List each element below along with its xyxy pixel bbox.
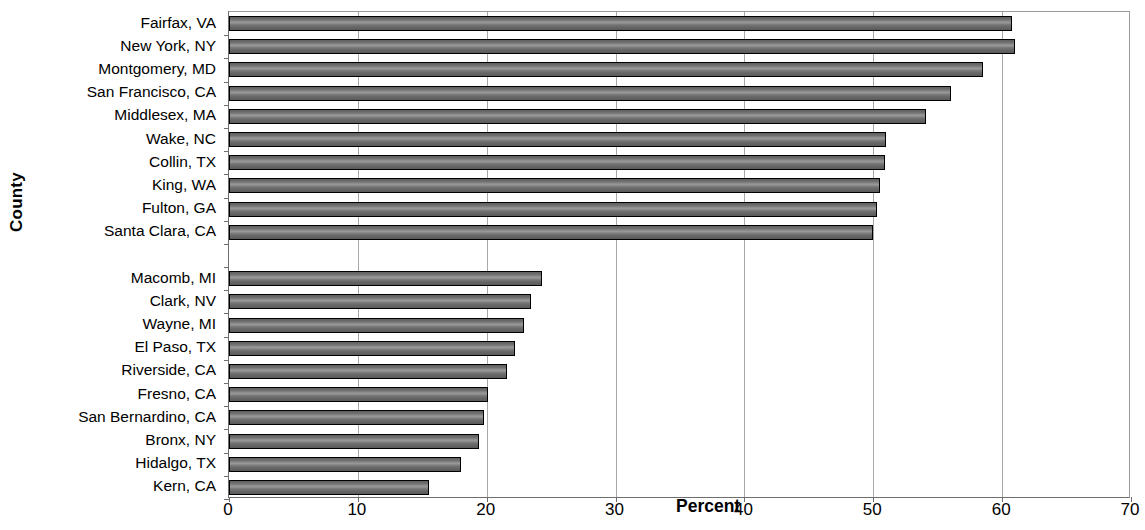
bar: [229, 294, 531, 309]
y-axis-title: County: [2, 132, 32, 272]
y-axis-category-label: Macomb, MI: [131, 270, 216, 286]
y-axis-category-label: Santa Clara, CA: [104, 223, 216, 239]
y-axis-category-label: Montgomery, MD: [98, 61, 216, 77]
y-axis-tick: [224, 174, 229, 175]
y-axis-tick: [224, 128, 229, 129]
bar: [229, 39, 1015, 54]
y-axis-category-label: San Bernardino, CA: [78, 409, 216, 425]
y-axis-tick: [224, 244, 229, 245]
y-axis-category-label: Bronx, NY: [145, 432, 216, 448]
y-axis-tick: [224, 198, 229, 199]
bar: [229, 155, 885, 170]
bar-chart: County Fairfax, VANew York, NYMontgomery…: [0, 0, 1145, 530]
y-axis-tick: [224, 151, 229, 152]
bar: [229, 341, 515, 356]
y-axis-category-label: Fulton, GA: [142, 200, 216, 216]
y-axis-category-label: Wake, NC: [146, 131, 216, 147]
y-axis-category-label: King, WA: [152, 177, 216, 193]
x-axis-tick-label: 70: [1121, 500, 1140, 520]
bar: [229, 410, 484, 425]
bar: [229, 364, 507, 379]
y-axis-tick: [224, 453, 229, 454]
y-axis-category-label: San Francisco, CA: [87, 84, 216, 100]
y-axis-tick: [224, 360, 229, 361]
y-axis-category-label: Wayne, MI: [143, 316, 217, 332]
y-axis-tick: [224, 105, 229, 106]
y-axis-category-label: Collin, TX: [149, 154, 216, 170]
y-axis-category-label: Riverside, CA: [121, 362, 216, 378]
y-axis-category-label: New York, NY: [120, 38, 216, 54]
x-axis-tick-label: 50: [863, 500, 882, 520]
x-axis-tick-label: 10: [347, 500, 366, 520]
y-axis-tick: [224, 221, 229, 222]
bar: [229, 225, 873, 240]
y-axis-tick: [224, 35, 229, 36]
bar: [229, 16, 1012, 31]
y-axis-tick: [224, 82, 229, 83]
y-axis-category-label: Middlesex, MA: [114, 107, 216, 123]
y-axis-tick: [224, 313, 229, 314]
y-axis-category-labels: Fairfax, VANew York, NYMontgomery, MDSan…: [40, 11, 222, 498]
x-axis-tick-label: 20: [476, 500, 495, 520]
plot-area: [228, 11, 1130, 498]
bar: [229, 434, 479, 449]
y-axis-title-text: County: [7, 172, 27, 232]
y-axis-tick: [224, 429, 229, 430]
bar: [229, 109, 926, 124]
bar: [229, 271, 542, 286]
x-axis-tick-label: 60: [992, 500, 1011, 520]
x-axis-tick-label: 0: [223, 500, 232, 520]
gridline: [1002, 12, 1003, 497]
y-axis-tick: [224, 58, 229, 59]
bar: [229, 86, 951, 101]
bar: [229, 387, 488, 402]
bar: [229, 178, 880, 193]
bar: [229, 318, 524, 333]
bar: [229, 457, 461, 472]
y-axis-category-label: Kern, CA: [153, 478, 216, 494]
x-axis-title: Percent: [676, 496, 740, 517]
bar: [229, 132, 886, 147]
y-axis-tick: [224, 406, 229, 407]
y-axis-category-label: Hidalgo, TX: [135, 455, 216, 471]
bar: [229, 480, 429, 495]
y-axis-category-label: Fairfax, VA: [140, 15, 216, 31]
y-axis-tick: [224, 290, 229, 291]
x-axis-tick-label: 30: [605, 500, 624, 520]
y-axis-category-label: El Paso, TX: [134, 339, 216, 355]
y-axis-tick: [224, 476, 229, 477]
bar: [229, 202, 877, 217]
bar: [229, 62, 983, 77]
y-axis-category-label: Clark, NV: [150, 293, 216, 309]
y-axis-category-label: Fresno, CA: [138, 386, 216, 402]
y-axis-tick: [224, 383, 229, 384]
y-axis-tick: [224, 267, 229, 268]
y-axis-tick: [224, 337, 229, 338]
